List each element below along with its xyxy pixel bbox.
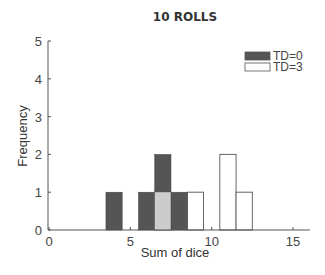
y-axis-label: Frequency (15, 105, 30, 167)
bar-td0 (171, 192, 187, 230)
legend: TD=0TD=3 (245, 49, 303, 74)
chart-title: 10 ROLLS (153, 10, 217, 24)
bar-td0 (138, 192, 154, 230)
x-tick-label: 15 (286, 234, 300, 249)
bar-td3 (187, 192, 203, 230)
y-tick-label: 0 (35, 223, 42, 238)
x-tick-label: 5 (127, 234, 134, 249)
y-tick-label: 4 (35, 72, 42, 87)
bar-td3 (220, 154, 236, 230)
y-tick-label: 3 (35, 110, 42, 125)
x-tick-label: 0 (45, 234, 52, 249)
bar-overlap (155, 192, 171, 230)
histogram-chart: 10 ROLLS 012345 051015 Sum of dice Frequ… (0, 0, 325, 275)
y-tick-label: 5 (35, 34, 42, 49)
bar-td3 (236, 192, 252, 230)
legend-label: TD=3 (273, 60, 303, 74)
bar-td0 (106, 192, 122, 230)
x-axis-label: Sum of dice (141, 245, 210, 260)
y-tick-label: 2 (35, 147, 42, 162)
bars-group (106, 154, 252, 230)
y-ticks: 012345 (35, 34, 51, 238)
legend-swatch (245, 52, 270, 60)
legend-swatch (245, 63, 270, 71)
y-tick-label: 1 (35, 185, 42, 200)
